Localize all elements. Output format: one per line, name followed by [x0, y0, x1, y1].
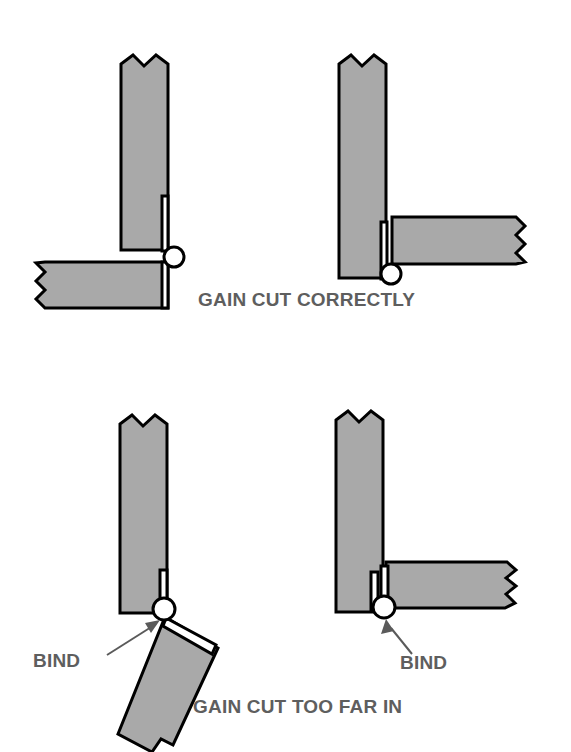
bind-leader-line-bottom-right — [391, 628, 412, 654]
panel-bottom-left: BIND — [33, 415, 218, 752]
caption-gain-cut-correctly: GAIN CUT CORRECTLY — [198, 289, 415, 310]
door-top-right — [392, 217, 525, 264]
bind-arrowhead-bottom-right — [381, 619, 394, 634]
door-top-left — [36, 262, 168, 308]
hinge-knuckle-top-right — [381, 264, 401, 284]
bind-label-bottom-left: BIND — [33, 650, 80, 671]
caption-gain-cut-too-far-in: GAIN CUT TOO FAR IN — [193, 696, 402, 717]
diagram-canvas: GAIN CUT CORRECTLY BIND — [0, 0, 571, 752]
hinge-knuckle-bottom-left — [153, 598, 175, 620]
panel-top-left — [36, 55, 184, 308]
hinge-leaf-jamb-top-left — [162, 196, 168, 251]
hinge-gain-cut-diagram: GAIN CUT CORRECTLY BIND — [0, 0, 571, 752]
bind-label-bottom-right: BIND — [400, 652, 447, 673]
jamb-top-right — [339, 55, 386, 278]
hinge-knuckle-top-left — [164, 247, 184, 267]
door-bottom-right — [386, 562, 516, 608]
hinge-leaf-door-top-left — [162, 262, 168, 308]
panel-top-right — [339, 55, 525, 284]
panel-bottom-right: BIND — [336, 411, 516, 673]
hinge-knuckle-bottom-right — [373, 596, 395, 618]
